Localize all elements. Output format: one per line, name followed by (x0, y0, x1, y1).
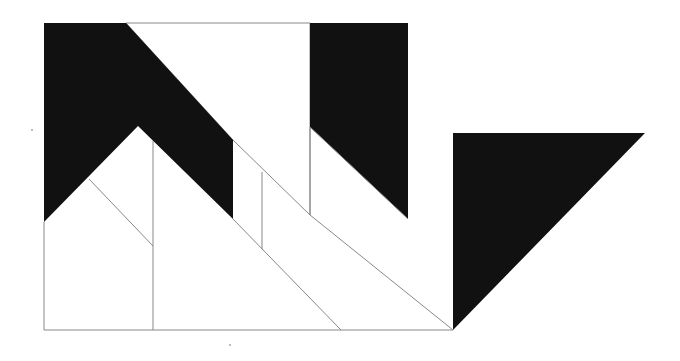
tangram-diagram (0, 0, 680, 361)
right-triangle-black (453, 133, 645, 330)
diagonal-to-341 (233, 219, 341, 330)
right-block-black (310, 23, 408, 219)
speck-bottom (229, 344, 231, 346)
diagonal-to-453 (310, 215, 453, 330)
speck-left (31, 129, 33, 131)
inner-diagonal-left (89, 179, 153, 246)
filled-shapes (44, 23, 645, 330)
